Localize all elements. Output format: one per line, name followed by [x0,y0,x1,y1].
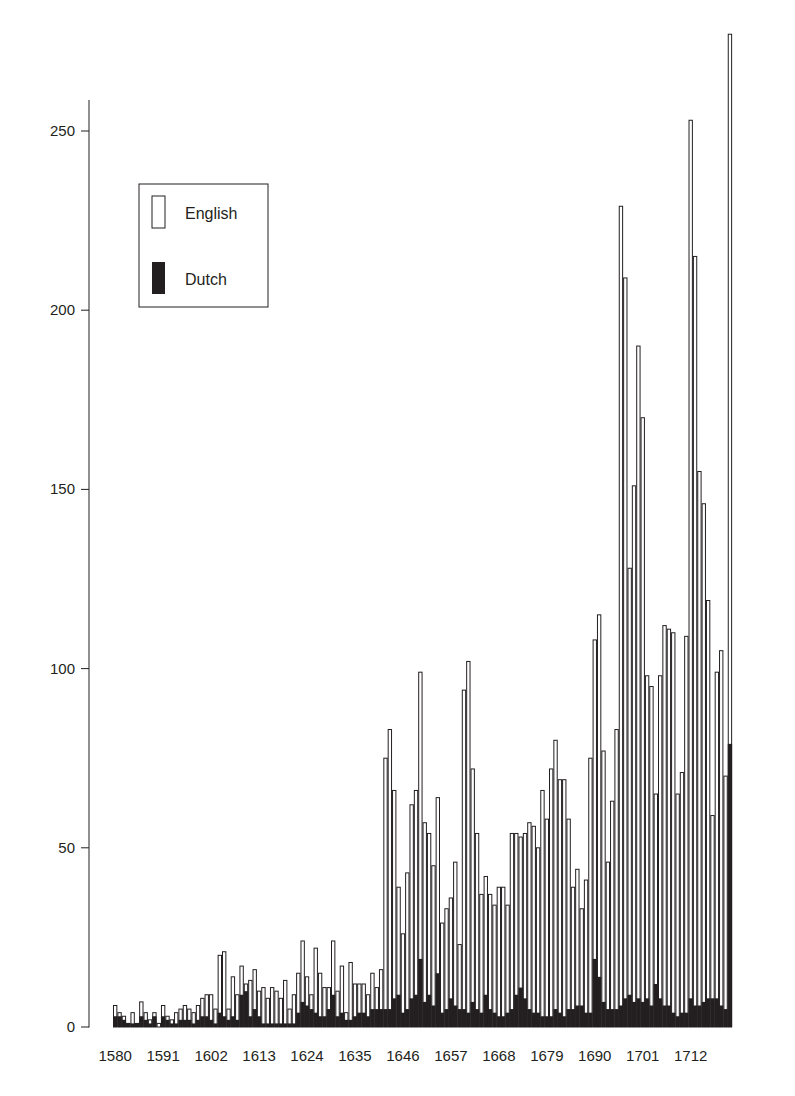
bar-group [566,819,570,1027]
bar-group [222,952,226,1027]
bar-dutch [479,1013,483,1027]
bar-english [711,816,714,1027]
bar-dutch [584,1013,588,1027]
bar-group [723,776,727,1027]
bar-group [414,790,418,1027]
bar-english [628,568,631,1027]
bar-english [279,998,282,1027]
bar-dutch [113,1016,117,1027]
bar-english [157,1023,160,1027]
bar-dutch [344,1020,348,1027]
bar-group [122,1016,126,1027]
bar-group [126,1023,130,1027]
bar-dutch [593,959,597,1027]
bar-group [375,988,379,1027]
bar-english [488,894,491,1027]
bar-group [601,751,605,1027]
bar-group [462,690,466,1027]
bar-group [492,905,496,1027]
bar-dutch [279,1023,283,1027]
bar-group [335,991,339,1027]
bar-group [257,991,261,1027]
bar-dutch [392,998,396,1027]
bar-english [663,626,666,1027]
bar-group [362,984,366,1027]
bar-english [724,776,727,1027]
bar-dutch [588,1013,592,1027]
bar-dutch [501,1016,505,1027]
bar-group [218,955,222,1027]
bar-dutch [226,1020,230,1027]
bar-dutch [641,1002,645,1027]
bar-dutch [649,1005,653,1027]
bar-dutch [680,1013,684,1027]
bar-english [698,471,701,1027]
bar-dutch [196,1020,200,1027]
bar-group [444,909,448,1027]
bar-dutch [388,1009,392,1027]
bar-group [178,1009,182,1027]
bar-group [161,1005,165,1027]
bar-group [453,862,457,1027]
bar-dutch [213,1023,217,1027]
bar-english [624,278,627,1027]
bar-dutch [148,1023,152,1027]
bar-english [388,730,391,1027]
bar-group [274,991,278,1027]
bar-dutch [553,1009,557,1027]
bar-dutch [401,1013,405,1027]
x-tick-label: 1591 [146,1047,179,1064]
y-tick-label: 100 [50,660,75,677]
bar-group [113,1005,117,1027]
bar-english [584,880,587,1027]
bar-english [659,676,662,1027]
bar-group [649,687,653,1027]
bar-dutch [418,959,422,1027]
bar-group [423,823,427,1027]
bar-group [510,833,514,1027]
bar-dutch [296,1013,300,1027]
bar-dutch [117,1016,121,1027]
bar-dutch [191,1023,195,1027]
bar-dutch [305,1005,309,1027]
bar-dutch [436,973,440,1027]
bar-dutch [135,1023,139,1027]
bar-group [357,984,361,1027]
bar-dutch [505,1013,509,1027]
bar-english [558,780,561,1027]
bar-dutch [562,1016,566,1027]
bar-group [540,790,544,1027]
bar-dutch [235,1020,239,1027]
bar-dutch [165,1020,169,1027]
bar-group [532,826,536,1027]
bar-group [344,1013,348,1027]
x-tick-label: 1679 [530,1047,563,1064]
bar-dutch [314,1013,318,1027]
bar-english [493,905,496,1027]
bar-dutch [488,1009,492,1027]
bar-dutch [527,1009,531,1027]
bar-group [314,948,318,1027]
bar-group [475,833,479,1027]
x-tick-label: 1613 [242,1047,275,1064]
bar-english [384,758,387,1027]
bar-group [431,866,435,1027]
bar-english [702,504,705,1027]
bar-group [340,966,344,1027]
bar-dutch [484,995,488,1027]
bar-dutch [566,1009,570,1027]
bar-english [641,418,644,1027]
bar-dutch [122,1020,126,1027]
bar-english [510,833,513,1027]
bar-english [284,980,287,1027]
bar-group [457,945,461,1027]
bar-english [619,206,622,1027]
bar-group [379,970,383,1027]
bar-dutch [218,1013,222,1027]
bar-dutch [340,1013,344,1027]
bar-group [693,256,697,1027]
bar-dutch [675,1016,679,1027]
bar-dutch [178,1020,182,1027]
bar-dutch [327,1009,331,1027]
bar-group [645,676,649,1027]
